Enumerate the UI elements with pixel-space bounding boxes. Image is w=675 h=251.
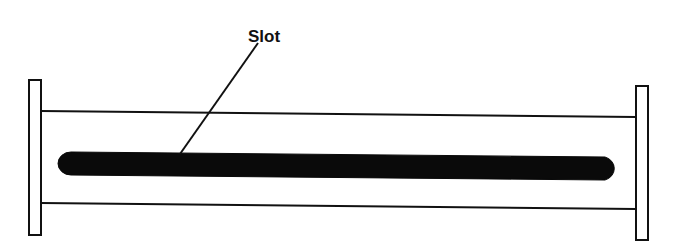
right-flange (636, 86, 648, 240)
slotted-waveguide-diagram: Slot (0, 0, 675, 251)
waveguide-top-wall (41, 111, 636, 117)
slot-leader-line (180, 43, 258, 154)
slot (58, 152, 614, 180)
waveguide-bottom-wall (41, 203, 636, 209)
left-flange (29, 80, 41, 235)
slot-label: Slot (248, 27, 280, 46)
